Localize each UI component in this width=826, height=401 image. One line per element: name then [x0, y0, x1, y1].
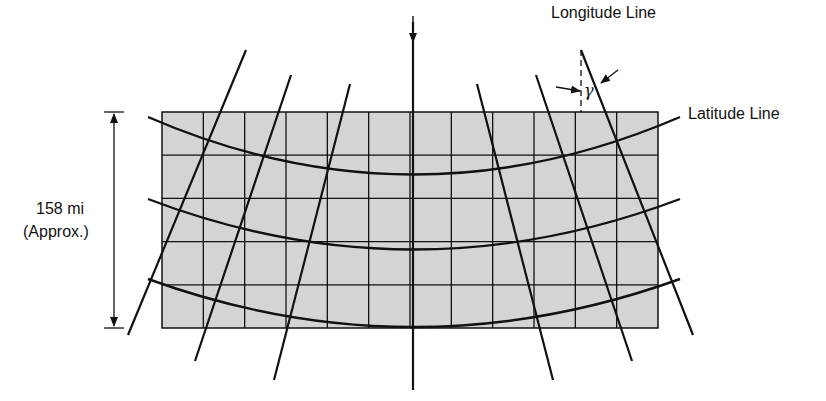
distance-label: 158 mi: [36, 199, 84, 218]
distance-dimension: [104, 112, 124, 328]
approx-label: (Approx.): [23, 222, 89, 241]
latitude-line-label: Latitude Line: [688, 104, 780, 123]
longitude-line-label: Longitude Line: [551, 3, 656, 22]
diagram-graphic: [0, 0, 826, 401]
map-projection-diagram: Longitude Line Latitude Line γ 158 mi (A…: [0, 0, 826, 401]
gamma-symbol: γ: [584, 81, 594, 100]
